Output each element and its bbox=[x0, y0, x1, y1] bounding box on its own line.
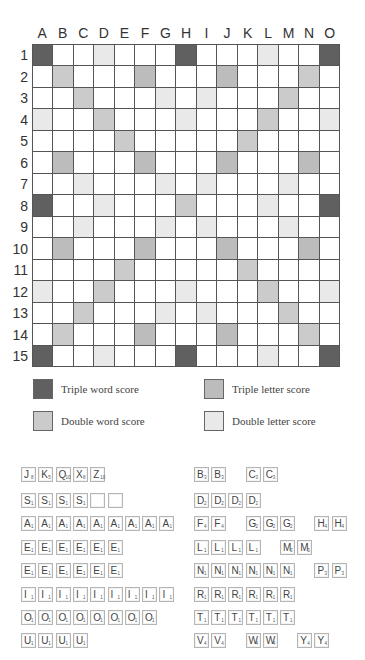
tile-l: L1 bbox=[194, 540, 209, 555]
double-word-cell bbox=[238, 131, 257, 151]
row-label: 4 bbox=[0, 112, 28, 128]
tile-k: K5 bbox=[38, 467, 53, 482]
board-cell bbox=[258, 260, 277, 280]
board-cell bbox=[197, 324, 216, 344]
board-cell bbox=[33, 66, 52, 86]
board-cell bbox=[33, 88, 52, 108]
tile-points: 1 bbox=[169, 524, 172, 529]
double-word-cell bbox=[176, 195, 195, 215]
board-cell bbox=[135, 281, 154, 301]
tile-letter: L bbox=[249, 542, 255, 553]
tile-letter: S bbox=[41, 495, 48, 506]
double-word-cell bbox=[53, 66, 72, 86]
double-letter-cell bbox=[258, 45, 277, 65]
board-cell bbox=[53, 131, 72, 151]
tile-points: 1 bbox=[66, 571, 69, 576]
column-label: K bbox=[237, 25, 258, 41]
board-cell bbox=[135, 260, 154, 280]
board-cell bbox=[74, 131, 93, 151]
tile-a: A1 bbox=[108, 516, 123, 531]
tile-letter: E bbox=[76, 565, 83, 576]
column-label: I bbox=[196, 25, 217, 41]
tile-n: N1 bbox=[246, 563, 261, 578]
board-cell bbox=[217, 346, 236, 366]
tile-points: 4 bbox=[221, 641, 224, 646]
tile-points: 4 bbox=[307, 641, 310, 646]
triple-letter-cell bbox=[135, 238, 154, 258]
board-cell bbox=[258, 88, 277, 108]
board-cell bbox=[176, 324, 195, 344]
double-word-cell bbox=[279, 303, 298, 323]
double-letter-cell bbox=[279, 217, 298, 237]
board-cell bbox=[320, 152, 339, 172]
tile-q: Q10 bbox=[56, 467, 71, 482]
tile-i: I1 bbox=[125, 587, 140, 602]
triple-letter-cell bbox=[299, 152, 318, 172]
tile-points: 1 bbox=[83, 571, 86, 576]
tile-points: 2 bbox=[273, 524, 276, 529]
tile-v: V4 bbox=[194, 633, 209, 648]
tile-z: Z10 bbox=[90, 467, 105, 482]
board-cell bbox=[156, 281, 175, 301]
tile-r: R1 bbox=[246, 587, 261, 602]
tile-o: O1 bbox=[38, 610, 53, 625]
board-cell bbox=[156, 109, 175, 129]
tile-m: M3 bbox=[280, 540, 295, 555]
column-label: M bbox=[278, 25, 299, 41]
board-cell bbox=[320, 217, 339, 237]
triple-letter-cell bbox=[299, 238, 318, 258]
tile-points: 4 bbox=[273, 641, 276, 646]
tile-points: 4 bbox=[324, 641, 327, 646]
board-cell bbox=[238, 195, 257, 215]
double-word-cell bbox=[115, 260, 134, 280]
triple-word-cell bbox=[33, 195, 52, 215]
tile-letter: X bbox=[76, 469, 83, 480]
board-cell bbox=[238, 238, 257, 258]
tile-points: 1 bbox=[204, 571, 207, 576]
triple-letter-cell bbox=[217, 66, 236, 86]
tile-points: 3 bbox=[273, 475, 276, 480]
board-cell bbox=[94, 152, 113, 172]
tile-letter: E bbox=[111, 565, 118, 576]
board-cell bbox=[156, 346, 175, 366]
tile-letter: A bbox=[41, 518, 48, 529]
tile-letter: T bbox=[266, 612, 272, 623]
tile-points: 10 bbox=[100, 475, 105, 480]
board-cell bbox=[74, 238, 93, 258]
blank-tile bbox=[108, 493, 123, 508]
double-word-cell bbox=[258, 109, 277, 129]
legend-label: Triple letter score bbox=[232, 383, 310, 395]
tile-points: 2 bbox=[238, 501, 241, 506]
board-cell bbox=[258, 152, 277, 172]
board-cell bbox=[115, 346, 134, 366]
row-label: 13 bbox=[0, 305, 28, 321]
tile-letter: B bbox=[197, 469, 204, 480]
tile-w: W4 bbox=[263, 633, 278, 648]
tile-i: I1 bbox=[142, 587, 157, 602]
tile-g: G2 bbox=[246, 516, 261, 531]
tile-points: 4 bbox=[342, 524, 345, 529]
double-letter-cell bbox=[320, 281, 339, 301]
board-cell bbox=[156, 45, 175, 65]
double-word-cell bbox=[74, 88, 93, 108]
row-label: 1 bbox=[0, 47, 28, 63]
triple-word-cell bbox=[33, 45, 52, 65]
tile-i: I1 bbox=[38, 587, 53, 602]
tile-points: 1 bbox=[31, 524, 34, 529]
tile-e: E1 bbox=[73, 540, 88, 555]
tile-letter: E bbox=[93, 565, 100, 576]
double-letter-cell bbox=[33, 109, 52, 129]
double-letter-cell bbox=[74, 217, 93, 237]
row-label: 8 bbox=[0, 198, 28, 214]
board-cell bbox=[238, 152, 257, 172]
tile-letter: E bbox=[59, 565, 66, 576]
triple-letter-cell bbox=[217, 152, 236, 172]
tile-letter: A bbox=[145, 518, 152, 529]
board-cell bbox=[320, 260, 339, 280]
tile-t: T1 bbox=[263, 610, 278, 625]
board-cell bbox=[74, 324, 93, 344]
tile-points: 1 bbox=[118, 524, 121, 529]
tile-n: N1 bbox=[211, 563, 226, 578]
board-cell bbox=[135, 195, 154, 215]
tile-l: L1 bbox=[211, 540, 226, 555]
